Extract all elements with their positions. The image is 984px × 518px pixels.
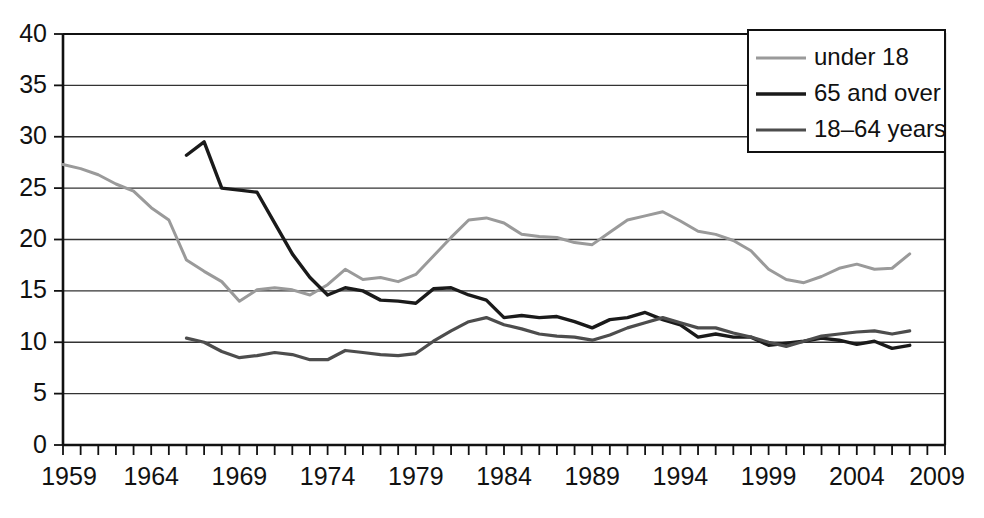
y-tick-label: 30: [19, 121, 47, 149]
y-axis: [54, 34, 63, 445]
x-axis: [63, 445, 945, 455]
y-tick-label: 20: [19, 224, 47, 252]
x-tick-label: 1984: [476, 462, 532, 490]
x-tick-label: 1989: [564, 462, 620, 490]
y-tick-label: 40: [19, 19, 47, 47]
x-tick-label: 1964: [123, 462, 179, 490]
y-tick-label: 0: [33, 430, 47, 458]
x-tick-label: 1994: [653, 462, 709, 490]
y-tick-label: 25: [19, 173, 47, 201]
series-line: [63, 164, 910, 301]
chart-canvas: 0510152025303540 19591964196919741979198…: [0, 0, 984, 518]
x-tick-labels: 1959196419691974197919841989199419992004…: [41, 462, 965, 490]
poverty-rate-line-chart: 0510152025303540 19591964196919741979198…: [0, 0, 984, 518]
x-tick-label: 1979: [388, 462, 444, 490]
legend-label: 18–64 years: [814, 115, 946, 142]
legend-label: 65 and over: [814, 79, 941, 106]
y-tick-label: 15: [19, 275, 47, 303]
x-tick-label: 1974: [300, 462, 356, 490]
y-tick-labels: 0510152025303540: [19, 19, 47, 458]
series-line: [186, 142, 909, 349]
y-tick-label: 10: [19, 327, 47, 355]
chart-legend: under 1865 and over18–64 years: [748, 30, 946, 152]
series-line: [186, 318, 909, 360]
x-tick-label: 1969: [212, 462, 268, 490]
x-tick-label: 2009: [909, 462, 965, 490]
x-tick-label: 1959: [41, 462, 97, 490]
x-tick-label: 1999: [741, 462, 797, 490]
x-tick-label: 2004: [829, 462, 885, 490]
y-tick-label: 35: [19, 70, 47, 98]
legend-label: under 18: [814, 43, 909, 70]
series-group: [63, 142, 910, 360]
y-tick-label: 5: [33, 378, 47, 406]
